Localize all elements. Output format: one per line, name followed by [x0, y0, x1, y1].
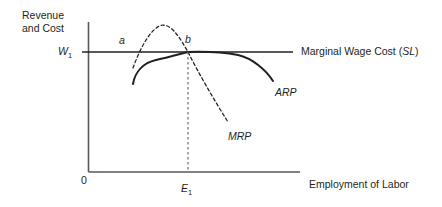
origin-label: 0 — [81, 174, 87, 187]
employment-subscript: 1 — [188, 188, 192, 197]
mwc-italic-sl: SL — [402, 45, 415, 57]
mwc-text: Marginal Wage Cost ( — [301, 45, 402, 57]
y-axis-title-line1: Revenue — [22, 9, 64, 21]
figure-canvas — [0, 0, 442, 207]
x-axis-title: Employment of Labor — [309, 178, 409, 191]
marginal-wage-cost-label: Marginal Wage Cost (SL) — [301, 45, 419, 58]
arp-curve-label: ARP — [275, 86, 297, 99]
employment-level-label: E1 — [181, 182, 192, 199]
wage-symbol: W — [58, 45, 68, 57]
mrp-curve-label: MRP — [228, 130, 251, 143]
y-axis-title: Revenueand Cost — [22, 9, 64, 35]
economics-figure: Revenueand Cost W1 0 E1 a b ARP MRP Marg… — [0, 0, 442, 207]
point-a-label: a — [119, 34, 125, 47]
point-b-label: b — [185, 33, 191, 46]
mrp-curve — [133, 25, 228, 122]
mwc-close-paren: ) — [415, 45, 419, 57]
wage-subscript: 1 — [68, 51, 72, 60]
employment-symbol: E — [181, 182, 188, 194]
wage-level-label: W1 — [58, 45, 72, 62]
y-axis-title-line2: and Cost — [22, 22, 64, 34]
